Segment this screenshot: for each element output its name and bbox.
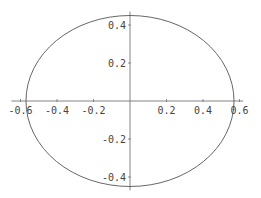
x-tick-label: -0.4 (45, 105, 69, 116)
x-tick-label: 0.4 (194, 105, 212, 116)
y-tick-label: -0.2 (102, 134, 126, 145)
axes (11, 12, 243, 191)
x-tick-label: -0.6 (8, 105, 32, 116)
y-tick-label: 0.4 (108, 20, 126, 31)
y-tick-label: -0.4 (102, 172, 126, 183)
x-tick-label: 0.6 (230, 105, 248, 116)
ellipse-chart: -0.6-0.4-0.20.20.40.6-0.4-0.20.20.4 (0, 0, 261, 198)
x-tick-label: 0.2 (157, 105, 175, 116)
y-tick-label: 0.2 (108, 58, 126, 69)
x-tick-label: -0.2 (81, 105, 105, 116)
